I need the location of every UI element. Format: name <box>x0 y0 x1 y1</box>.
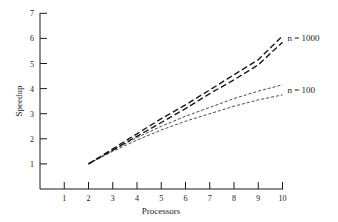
axes <box>40 13 283 189</box>
y-tick-label: 6 <box>30 34 34 43</box>
x-tick-label: 8 <box>232 194 236 203</box>
x-tick-label: 5 <box>159 194 163 203</box>
y-tick-label: 2 <box>30 135 34 144</box>
x-tick-label: 7 <box>208 194 212 203</box>
x-ticks: 12345678910 <box>62 182 286 203</box>
x-tick-label: 4 <box>135 194 139 203</box>
y-tick-label: 7 <box>30 9 34 18</box>
y-tick-label: 3 <box>30 110 34 119</box>
x-tick-label: 2 <box>87 194 91 203</box>
n-1000-line <box>89 42 283 164</box>
series-annotation: n = 1000 <box>288 33 321 43</box>
series-annotation: n = 100 <box>288 85 316 95</box>
x-tick-label: 10 <box>279 194 287 203</box>
y-tick-label: 4 <box>30 85 34 94</box>
x-tick-label: 9 <box>256 194 260 203</box>
y-axis-title: Speedup <box>14 85 24 116</box>
data-series <box>89 36 283 164</box>
speedup-chart: 1234567 12345678910 n = 1000n = 100 Spee… <box>0 0 338 222</box>
x-tick-label: 6 <box>184 194 188 203</box>
y-tick-label: 1 <box>30 160 34 169</box>
x-tick-label: 1 <box>62 194 66 203</box>
y-tick-label: 5 <box>30 60 34 69</box>
annotations: n = 1000n = 100 <box>288 33 321 94</box>
n-100-line <box>89 85 283 164</box>
n-1000-line <box>89 36 283 164</box>
x-tick-label: 3 <box>111 194 115 203</box>
x-axis-title: Processors <box>142 206 181 216</box>
y-ticks: 1234567 <box>30 9 47 169</box>
